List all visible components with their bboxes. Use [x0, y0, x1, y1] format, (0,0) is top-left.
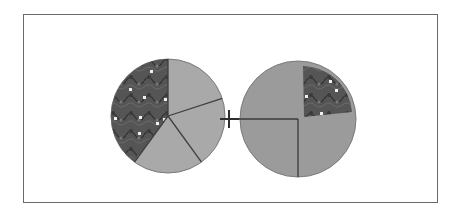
left-fraction-circle — [111, 59, 225, 173]
right-fraction-circle — [240, 61, 356, 177]
right-shaded-sector — [303, 66, 352, 117]
fraction-diagram — [0, 0, 463, 217]
